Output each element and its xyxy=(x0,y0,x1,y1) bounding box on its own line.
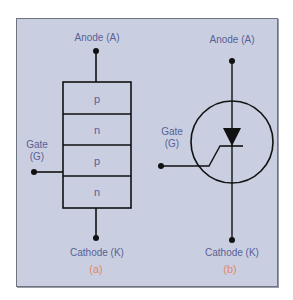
anode-label-a: Anode (A) xyxy=(74,32,119,43)
gate-label-b: Gate xyxy=(161,126,183,137)
cathode-terminal-a xyxy=(93,235,99,241)
caption-a: (a) xyxy=(89,263,102,275)
panel-b-symbol: Anode (A) Gate (G) Cathode (K) (b) xyxy=(158,34,273,275)
layer-n1: n xyxy=(94,124,100,136)
anode-label-b: Anode (A) xyxy=(209,34,254,45)
gate-terminal-b xyxy=(158,163,164,169)
layer-p1: p xyxy=(94,93,100,105)
layer-p2: p xyxy=(94,155,100,167)
gate-label-a: Gate xyxy=(26,139,48,150)
panel-a-structure: Anode (A) p n p n Gate (G) Cathode (K) (… xyxy=(26,32,131,275)
layer-n2: n xyxy=(94,186,100,198)
cathode-label-b: Cathode (K) xyxy=(205,247,259,258)
thyristor-diagram: Anode (A) p n p n Gate (G) Cathode (K) (… xyxy=(0,0,293,300)
diode-arrow-icon xyxy=(223,128,241,146)
cathode-label-a: Cathode (K) xyxy=(70,247,124,258)
gate-label-a-abbr: (G) xyxy=(30,151,44,162)
caption-b: (b) xyxy=(223,263,236,275)
gate-label-b-abbr: (G) xyxy=(165,138,179,149)
cathode-terminal-b xyxy=(229,237,235,243)
